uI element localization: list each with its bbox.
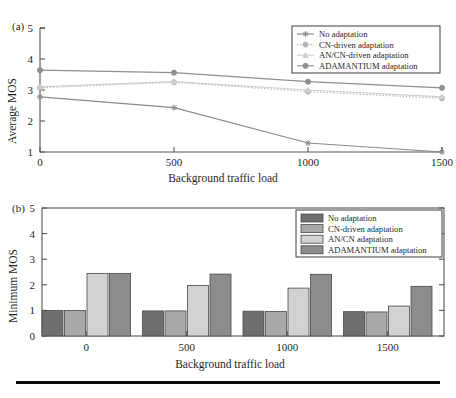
panel-a-x-tick-label: 1500 xyxy=(431,156,454,168)
panel-a-data-point xyxy=(439,85,444,90)
panel-b-bar xyxy=(210,274,231,336)
panel-a-data-point xyxy=(37,94,43,100)
panel-b-bar xyxy=(344,312,365,336)
panel-b-legend-swatch xyxy=(301,235,323,243)
panel-b-legend-label: AN/CN adaptation xyxy=(328,234,393,244)
panel-a-y-tick-label: 4 xyxy=(28,53,34,65)
panel-b-y-tick-label: 1 xyxy=(30,304,36,316)
panel-b-y-tick-labels: 012345 xyxy=(30,202,36,342)
panel-b-bar xyxy=(411,286,432,336)
panel-b-bar xyxy=(266,311,287,336)
panel-a-data-point xyxy=(171,105,177,111)
panel-b-y-tick-label: 2 xyxy=(30,279,36,291)
line-chart-svg: (a) Average MOS 12345 050010001500 No ad… xyxy=(0,6,456,186)
panel-a-x-tick-label: 1000 xyxy=(297,156,320,168)
panel-a-average-mos: (a) Average MOS 12345 050010001500 No ad… xyxy=(0,6,456,186)
panel-b-bar xyxy=(65,310,86,336)
panel-a-series-line xyxy=(40,97,442,152)
panel-a-y-tick-labels: 12345 xyxy=(28,22,34,158)
panel-b-bar xyxy=(110,274,131,336)
panel-a-y-axis-title: Average MOS xyxy=(6,78,19,144)
panel-b-bar xyxy=(188,286,209,336)
panel-a-legend-marker xyxy=(303,63,308,68)
panel-a-legend-marker xyxy=(303,42,308,47)
panel-b-legend-label: CN-driven adaptation xyxy=(328,224,403,234)
panel-a-legend-label: ADAMANTIUM adaptation xyxy=(319,61,418,71)
panel-a-x-tick-label: 0 xyxy=(37,156,43,168)
panel-b-bar xyxy=(366,312,387,336)
panel-b-bar xyxy=(311,274,332,336)
panel-a-data-point xyxy=(305,79,310,84)
panel-b-legend-item[interactable]: AN/CN adaptation xyxy=(301,234,393,244)
panel-b-y-tick-label: 5 xyxy=(30,202,36,214)
panel-a-y-tick-label: 2 xyxy=(28,115,34,127)
panel-a-data-point xyxy=(171,70,176,75)
panel-a-data-point xyxy=(305,140,311,146)
panel-a-legend-label: No adaptation xyxy=(319,29,368,39)
panel-b-bar xyxy=(288,288,309,336)
bottom-divider-rule xyxy=(16,381,440,384)
panel-b-x-tick-label: 1500 xyxy=(377,341,400,353)
panel-b-x-tick-label: 1000 xyxy=(276,341,299,353)
panel-a-y-tick-label: 1 xyxy=(28,146,34,158)
panel-a-y-tick-label: 5 xyxy=(28,22,34,34)
panel-b-x-tick-label: 500 xyxy=(179,341,196,353)
panel-b-legend-swatch xyxy=(301,246,323,254)
panel-b-bar xyxy=(243,311,264,336)
panel-b-legend-item[interactable]: ADAMANTIUM adaptation xyxy=(301,245,427,255)
panel-a-legend-label: AN/CN-driven adaptation xyxy=(319,50,409,60)
panel-b-legend: No adaptationCN-driven adaptationAN/CN a… xyxy=(296,210,442,257)
bar-chart-svg: (b) Minimum MOS 012345 050010001500 No a… xyxy=(0,186,456,372)
panel-b-y-axis-title: Minimum MOS xyxy=(7,249,19,323)
figure-container: (a) Average MOS 12345 050010001500 No ad… xyxy=(0,0,456,398)
panel-a-x-axis-title: Background traffic load xyxy=(168,172,278,185)
panel-b-x-tick-label: 0 xyxy=(84,341,90,353)
panel-a-series-group xyxy=(37,68,445,155)
panel-a-x-tick-labels: 050010001500 xyxy=(37,156,453,168)
panel-a-legend-marker xyxy=(303,31,309,37)
panel-b-bar xyxy=(389,306,410,336)
panel-b-legend-label: ADAMANTIUM adaptation xyxy=(328,245,427,255)
panel-b-bar xyxy=(87,274,108,336)
panel-b-x-axis-title: Background traffic load xyxy=(175,358,285,371)
panel-a-series-0 xyxy=(37,94,445,155)
panel-a-series-1 xyxy=(37,80,444,101)
panel-a-x-tick-label: 500 xyxy=(166,156,183,168)
panel-a-y-tick-label: 3 xyxy=(28,84,34,96)
panel-b-legend-item[interactable]: No adaptation xyxy=(301,213,377,223)
panel-a-series-line xyxy=(40,82,442,97)
panel-b-y-tick-label: 0 xyxy=(30,330,36,342)
panel-b-y-tick-label: 3 xyxy=(30,253,36,265)
panel-b-bar xyxy=(143,311,164,336)
panel-b-label: (b) xyxy=(12,202,25,215)
panel-b-legend-swatch xyxy=(301,225,323,233)
panel-a-data-point xyxy=(439,149,445,155)
panel-b-x-tick-labels: 050010001500 xyxy=(84,341,400,353)
panel-b-minimum-mos: (b) Minimum MOS 012345 050010001500 No a… xyxy=(0,186,456,372)
panel-b-y-tick-label: 4 xyxy=(30,228,36,240)
panel-b-bar xyxy=(165,311,186,336)
panel-a-legend-label: CN-driven adaptation xyxy=(319,40,394,50)
panel-b-legend-label: No adaptation xyxy=(328,213,377,223)
panel-a-data-point xyxy=(37,68,42,73)
panel-a-legend: No adaptationCN-driven adaptationAN/CN-d… xyxy=(292,26,440,73)
panel-a-label: (a) xyxy=(12,20,25,33)
panel-b-bars-group xyxy=(42,274,432,336)
panel-b-legend-item[interactable]: CN-driven adaptation xyxy=(301,224,403,234)
panel-b-legend-swatch xyxy=(301,214,323,222)
panel-b-bar xyxy=(42,310,63,336)
